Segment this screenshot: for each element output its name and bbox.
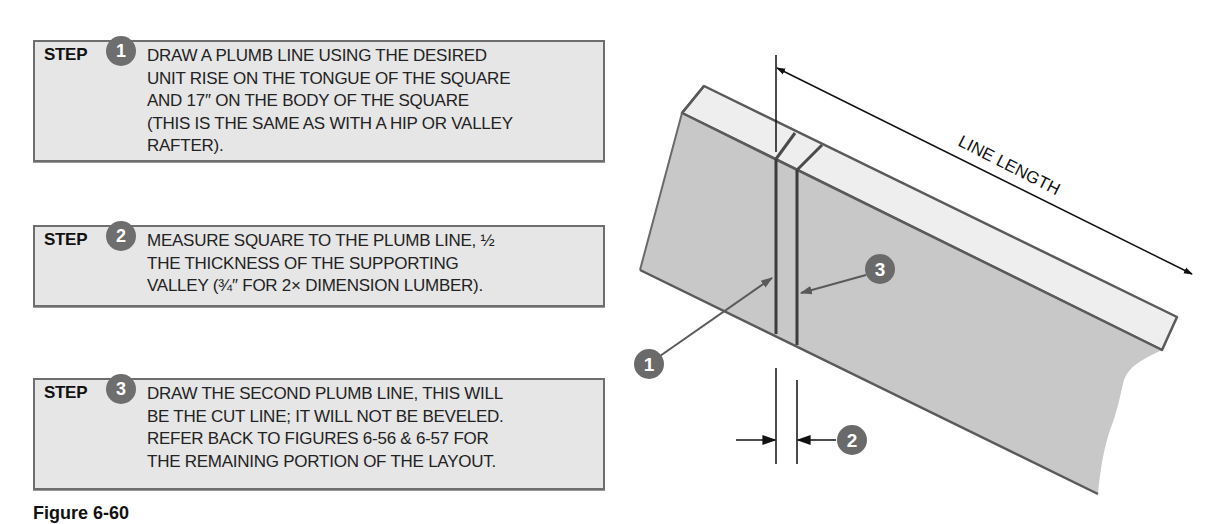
callout-3-number: 3 [875, 259, 886, 280]
line-length-label: LINE LENGTH [955, 132, 1063, 200]
callout-2-number: 2 [847, 430, 858, 451]
callout-1-number: 1 [644, 354, 655, 375]
